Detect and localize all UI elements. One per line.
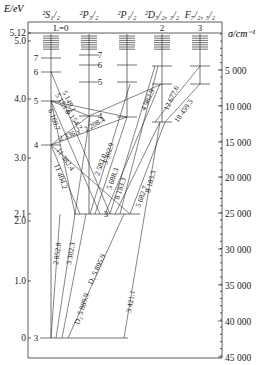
principal-quantum-number: 3 (104, 209, 109, 219)
left-tick-label: 1.0 (14, 276, 26, 286)
left-axis-title: E/eV (4, 3, 23, 14)
right-tick-label: 30 000 (225, 245, 251, 255)
left-tick-label: 3.0 (14, 153, 26, 163)
principal-quantum-number: 3 (34, 333, 39, 343)
column-header: F₇/₂, ₅/₂ (184, 9, 216, 20)
column-l-label: 2 (160, 23, 165, 33)
principal-quantum-number: 7 (98, 50, 103, 60)
right-tick-label: 40 000 (225, 317, 251, 327)
principal-quantum-number: 6 (98, 60, 103, 70)
principal-quantum-number: 7 (34, 53, 39, 63)
left-tick-label: 5.0 (14, 36, 26, 46)
grotrian-diagram: 5.125.04.03.02.12.01.005 00010 00015 000… (0, 0, 265, 365)
column-l-label: 3 (198, 23, 203, 33)
right-axis-title: σ/cm⁻¹ (228, 28, 255, 39)
principal-quantum-number: 6 (34, 67, 39, 77)
right-tick-label: 20 000 (225, 173, 251, 183)
wavelength-label: 3 302.9 (100, 141, 116, 165)
right-tick-label: 25 000 (225, 209, 251, 219)
column-l-label: L=0 (53, 23, 69, 33)
left-tick-label: 2.0 (14, 216, 26, 226)
wavelength-label: 3 302.3 (64, 241, 77, 265)
column-header: ²P₃/₂ (80, 9, 99, 20)
principal-quantum-number: 4 (98, 111, 103, 121)
right-tick-label: 10 000 (225, 102, 251, 112)
right-tick-label: 45 000 (225, 353, 251, 363)
wavelength-label: D₂ 5 889.9 (72, 292, 91, 326)
right-tick-label: 15 000 (225, 138, 251, 148)
wavelength-label: 2 852.8 (51, 241, 63, 265)
column-header: ²P₁/₂ (118, 9, 137, 20)
column-header: ²S₁/₂ (42, 9, 60, 20)
right-tick-label: 5 000 (225, 66, 247, 76)
wavelength-label: 6 160.7 (46, 108, 62, 132)
principal-quantum-number: 5 (98, 77, 103, 87)
energy-level-diagram: 5.125.04.03.02.12.01.005 00010 00015 000… (0, 0, 265, 365)
wavelength-label: 2 208.4 (83, 115, 107, 134)
left-tick-label: 4.0 (14, 94, 26, 104)
wavelength-label: D₁ 5 895.9 (86, 252, 108, 285)
column-header: ²D₅/₂, ₃/₂ (145, 9, 180, 20)
left-tick-label: 0 (21, 333, 26, 343)
right-tick-label: 35 000 (225, 281, 251, 291)
labels: 5 149.15 153.66 154.26 160.72 208.42 336… (34, 50, 195, 343)
principal-quantum-number: 5 (34, 96, 39, 106)
wavelength-label: 3 421.1 (124, 289, 137, 313)
principal-quantum-number: 4 (34, 140, 39, 150)
wavelength-label: 4 982.9 (139, 87, 157, 111)
